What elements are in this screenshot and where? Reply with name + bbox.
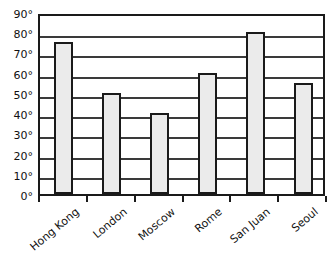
y-axis-label: 30° (0, 130, 33, 141)
bar (54, 42, 73, 194)
bar (102, 93, 121, 194)
y-axis-label: 50° (0, 89, 33, 100)
gridline (40, 56, 323, 58)
y-axis-label: 80° (0, 29, 33, 40)
x-axis-label: Hong Kong (28, 206, 82, 254)
y-axis-label: 90° (0, 9, 33, 20)
bar (198, 73, 217, 194)
gridline (40, 77, 323, 79)
bar (246, 32, 265, 194)
gridline (40, 117, 323, 119)
x-axis-label: San Juan (228, 206, 273, 246)
x-axis-label: Rome (193, 206, 225, 235)
x-axis-tick-labels: Hong KongLondonMoscowRomeSan JuanSeoul (0, 196, 335, 261)
x-axis-label: London (91, 206, 130, 241)
gridline (40, 137, 323, 139)
gridline (40, 97, 323, 99)
y-axis-label: 40° (0, 110, 33, 121)
y-axis-label: 60° (0, 69, 33, 80)
bar (294, 83, 313, 194)
x-axis-label: Moscow (136, 206, 177, 243)
plot-area (38, 14, 325, 196)
y-axis-label: 70° (0, 49, 33, 60)
bar (150, 113, 169, 194)
gridline (40, 158, 323, 160)
y-axis-label: 20° (0, 150, 33, 161)
x-axis-label: Seoul (290, 206, 321, 235)
gridline (40, 178, 323, 180)
y-axis-tick-labels: 0°10°20°30°40°50°60°70°80°90° (0, 14, 33, 196)
y-axis-label: 10° (0, 170, 33, 181)
bar-chart: 0°10°20°30°40°50°60°70°80°90° Hong KongL… (0, 0, 335, 261)
gridline (40, 36, 323, 38)
